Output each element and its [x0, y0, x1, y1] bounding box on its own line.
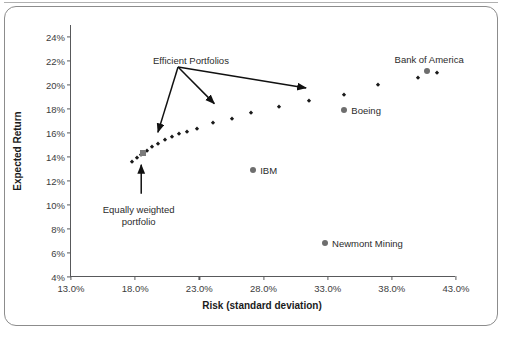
- y-tick-label: 12%: [46, 176, 65, 187]
- y-tick-label: 14%: [46, 152, 65, 163]
- stock-label-bank-of-america: Bank of America: [395, 54, 464, 65]
- frontier-point: [176, 132, 181, 137]
- y-tick-mark: [67, 60, 71, 61]
- frontier-point: [150, 145, 155, 150]
- y-tick-label: 8%: [51, 224, 65, 235]
- frontier-point: [211, 121, 216, 126]
- y-tick-mark: [67, 84, 71, 85]
- frontier-point: [156, 141, 161, 146]
- annotation-equally-weighted-line1: Equally weighted: [103, 204, 175, 216]
- x-axis-title: Risk (standard deviation): [202, 300, 321, 311]
- stock-marker: [250, 167, 256, 173]
- annotation-equally-weighted-line2: portfolio: [103, 216, 175, 228]
- x-tick-mark: [199, 276, 200, 280]
- y-tick-mark: [67, 228, 71, 229]
- y-tick-label: 24%: [46, 32, 65, 43]
- frontier-point: [162, 137, 167, 142]
- frontier-point: [185, 129, 190, 134]
- x-tick-label: 33.0%: [314, 283, 341, 294]
- y-tick-label: 22%: [46, 56, 65, 67]
- plot-area: 4%6%8%10%12%14%16%18%20%22%24% 13.0%18.0…: [70, 25, 455, 277]
- frontier-point: [415, 76, 420, 81]
- y-axis-title: Expected Return: [12, 111, 23, 190]
- frontier-point: [342, 93, 347, 98]
- stock-marker: [424, 68, 430, 74]
- frontier-point: [434, 71, 439, 76]
- x-tick-label: 13.0%: [58, 283, 85, 294]
- x-tick-label: 23.0%: [186, 283, 213, 294]
- annotation-efficient-portfolios: Efficient Portfolios: [153, 55, 229, 67]
- frontier-point: [230, 117, 235, 122]
- x-tick-label: 28.0%: [250, 283, 277, 294]
- x-tick-mark: [455, 276, 456, 280]
- y-tick-label: 20%: [46, 80, 65, 91]
- frontier-point: [376, 83, 381, 88]
- y-tick-mark: [67, 156, 71, 157]
- x-tick-mark: [135, 276, 136, 280]
- y-tick-label: 6%: [51, 248, 65, 259]
- frontier-point: [307, 98, 312, 103]
- equally-weighted-marker: [140, 150, 146, 156]
- frontier-point: [249, 111, 254, 116]
- x-tick-mark: [327, 276, 328, 280]
- top-rule: [4, 2, 498, 3]
- x-tick-mark: [263, 276, 264, 280]
- annotation-equally-weighted: Equally weighted portfolio: [103, 204, 175, 228]
- x-tick-label: 18.0%: [122, 283, 149, 294]
- y-tick-mark: [67, 108, 71, 109]
- stock-marker: [322, 240, 328, 246]
- frontier-point: [195, 126, 200, 131]
- chart-figure: Expected Return Risk (standard deviation…: [0, 0, 510, 339]
- y-tick-mark: [67, 132, 71, 133]
- y-tick-label: 16%: [46, 128, 65, 139]
- y-tick-mark: [67, 36, 71, 37]
- x-tick-label: 43.0%: [443, 283, 470, 294]
- y-tick-label: 18%: [46, 104, 65, 115]
- y-tick-label: 10%: [46, 200, 65, 211]
- stock-label-boeing: Boeing: [351, 105, 381, 116]
- stock-marker: [341, 107, 347, 113]
- frontier-point: [276, 105, 281, 110]
- frontier-point: [130, 159, 135, 164]
- x-tick-mark: [70, 276, 71, 280]
- frontier-point: [169, 135, 174, 140]
- y-tick-mark: [67, 252, 71, 253]
- stock-label-newmont-mining: Newmont Mining: [332, 238, 403, 249]
- y-tick-label: 4%: [51, 272, 65, 283]
- stock-label-ibm: IBM: [260, 165, 277, 176]
- x-tick-mark: [391, 276, 392, 280]
- x-tick-label: 38.0%: [378, 283, 405, 294]
- y-tick-mark: [67, 204, 71, 205]
- y-tick-mark: [67, 180, 71, 181]
